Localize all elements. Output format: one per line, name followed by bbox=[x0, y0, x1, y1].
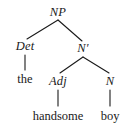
node-n: N bbox=[106, 75, 115, 88]
node-np: NP bbox=[50, 6, 66, 19]
leaf-boy: boy bbox=[101, 110, 120, 123]
leaf-the: the bbox=[17, 73, 32, 86]
edge-np-det bbox=[27, 20, 58, 39]
syntax-tree-figure: NP Det N′ the Adj N handsome boy bbox=[0, 0, 132, 133]
edge-nbar-adj bbox=[60, 57, 83, 73]
node-adj: Adj bbox=[49, 75, 67, 88]
edge-np-nbar bbox=[58, 20, 82, 41]
leaf-handsome: handsome bbox=[33, 110, 84, 123]
edge-nbar-n bbox=[83, 57, 109, 73]
node-det: Det bbox=[16, 40, 35, 53]
node-n-bar: N′ bbox=[77, 42, 88, 55]
